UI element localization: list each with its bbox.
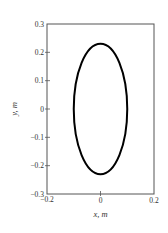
- y-tick-label: 0: [40, 105, 44, 114]
- y-tick-label: 0.2: [35, 48, 45, 57]
- x-tick-label: 0: [99, 196, 103, 205]
- x-axis-label: x, m: [92, 209, 107, 219]
- ellipse-chart: 0.30.20.10−0.1−0.2−0.3 −0.200.2 x, m y, …: [0, 0, 168, 233]
- x-axis-ticks: −0.200.2: [40, 191, 159, 205]
- y-tick-label: −0.1: [30, 133, 44, 142]
- x-tick-label: 0.2: [149, 196, 159, 205]
- plot-area: [47, 24, 154, 194]
- y-tick-label: 0.1: [35, 76, 45, 85]
- x-tick-label: −0.2: [40, 195, 54, 204]
- y-tick-label: 0.3: [35, 20, 45, 29]
- y-axis-label: y, m: [9, 102, 19, 117]
- y-tick-label: −0.2: [30, 161, 44, 170]
- ellipse-curve: [74, 44, 128, 174]
- axes-frame: [47, 24, 154, 194]
